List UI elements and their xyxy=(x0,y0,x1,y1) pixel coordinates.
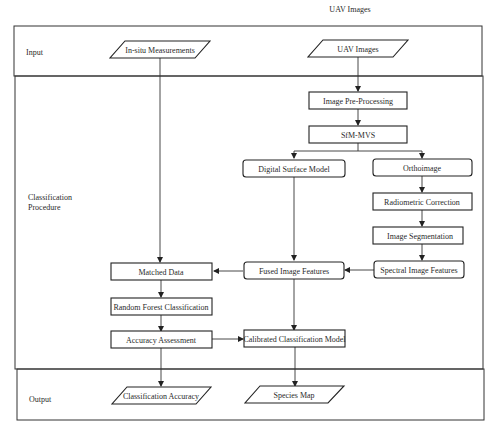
svg-text:UAV Images: UAV Images xyxy=(337,45,378,54)
node-image-pre-processing: Image Pre-Processing xyxy=(309,92,407,109)
flowchart-diagram: UAV Images Input Classification Procedur… xyxy=(0,0,496,434)
node-orthoimage: Orthoimage xyxy=(373,159,472,176)
svg-text:Random Forest Classification: Random Forest Classification xyxy=(113,303,208,312)
node-calibrated-classification-model: Calibrated Classification Model xyxy=(243,330,346,347)
svg-text:Image Pre-Processing: Image Pre-Processing xyxy=(323,97,393,106)
svg-text:In-situ Measurements: In-situ Measurements xyxy=(125,46,195,55)
lane-label-input: Input xyxy=(26,48,44,57)
svg-text:Calibrated Classification Mode: Calibrated Classification Model xyxy=(243,335,346,344)
swimlane-output: Output xyxy=(17,369,484,420)
node-uav-images: UAV Images xyxy=(308,40,408,57)
node-sfm-mvs: SfM-MVS xyxy=(309,126,407,143)
svg-text:Radiometric Correction: Radiometric Correction xyxy=(384,198,460,207)
node-classification-accuracy: Classification Accuracy xyxy=(112,387,211,404)
swimlane-input: Input xyxy=(14,26,482,76)
node-random-forest-classification: Random Forest Classification xyxy=(111,298,212,315)
svg-text:SfM-MVS: SfM-MVS xyxy=(341,131,375,140)
node-accuracy-assessment: Accuracy Assessment xyxy=(111,331,212,348)
svg-text:Classification Accuracy: Classification Accuracy xyxy=(123,392,199,401)
svg-text:Spectral Image Features: Spectral Image Features xyxy=(380,266,457,275)
edge-sfm-ortho xyxy=(358,151,422,158)
svg-text:Image Segmentation: Image Segmentation xyxy=(387,232,453,241)
node-spectral-image-features: Spectral Image Features xyxy=(374,261,464,278)
node-image-segmentation: Image Segmentation xyxy=(373,227,463,244)
edge-sfm-dsm xyxy=(294,143,358,158)
lane-label-classification-line2: Procedure xyxy=(28,203,61,212)
node-matched-data: Matched Data xyxy=(111,263,212,280)
diagram-caption: UAV Images xyxy=(329,5,370,14)
node-digital-surface-model: Digital Surface Model xyxy=(243,160,345,177)
svg-text:Species Map: Species Map xyxy=(273,391,314,400)
svg-text:Orthoimage: Orthoimage xyxy=(403,164,442,173)
node-species-map: Species Map xyxy=(245,386,344,403)
lane-label-output: Output xyxy=(29,395,52,404)
swimlane-classification: Classification Procedure xyxy=(15,76,483,369)
node-radiometric-correction: Radiometric Correction xyxy=(373,193,472,210)
svg-text:Matched Data: Matched Data xyxy=(138,268,184,277)
node-fused-image-features: Fused Image Features xyxy=(244,262,344,279)
svg-text:Fused Image Features: Fused Image Features xyxy=(259,267,329,276)
svg-text:Accuracy Assessment: Accuracy Assessment xyxy=(126,336,197,345)
lane-label-classification-line1: Classification xyxy=(28,193,72,202)
node-insitu-measurements: In-situ Measurements xyxy=(110,41,210,58)
svg-text:Digital Surface Model: Digital Surface Model xyxy=(258,165,330,174)
